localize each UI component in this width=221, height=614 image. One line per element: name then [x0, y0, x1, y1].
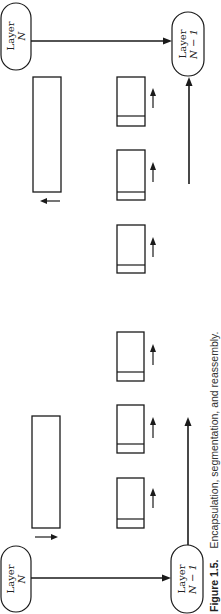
layer-n-minus-1-node-bottom: Layer N − 1: [171, 545, 203, 613]
node-label: Layer: [177, 29, 188, 58]
segment-top-2: [117, 150, 145, 200]
svg-text:Figure 1.5. Encapsulatio: Figure 1.5. Encapsulation, segmentation,…: [204, 332, 221, 612]
segment-bottom-3: [117, 478, 144, 528]
caption-text: Encapsulation, segmentation, and reassem…: [208, 332, 220, 549]
node-sublabel: N − 1: [187, 564, 198, 595]
arrow-up-small: [150, 88, 156, 108]
arrow-small-right: [35, 534, 58, 540]
figure-caption: Figure 1.5. Encapsulation, segmentation,…: [204, 332, 221, 612]
arrow-up-small: [150, 417, 156, 438]
segment-bottom-2: [117, 405, 144, 453]
node-sublabel: N: [16, 573, 27, 584]
node-label: Layer: [5, 21, 16, 50]
arrow-up-small: [150, 344, 156, 365]
encapsulation-diagram: Layer N Layer N − 1: [0, 0, 221, 614]
pdu-box-bottom: [32, 416, 60, 528]
arrow-up-small: [150, 162, 156, 182]
segment-bottom-1: [117, 332, 144, 381]
layer-n-node-top: Layer N: [1, 3, 31, 70]
node-sublabel: N: [16, 30, 27, 41]
arrow-up-small: [150, 237, 156, 257]
node-sublabel: N − 1: [188, 29, 199, 60]
arrow-bottom-horizontal: [31, 575, 171, 582]
caption-label: Figure 1.5.: [208, 559, 220, 612]
arrow-up-small: [150, 488, 156, 508]
layer-n-minus-1-node-top: Layer N − 1: [172, 12, 204, 76]
layer-n-node-bottom: Layer N: [1, 546, 31, 612]
pdu-box-top: [33, 77, 61, 192]
arrow-bottom-vertical: [185, 417, 192, 545]
node-label: Layer: [176, 564, 187, 593]
node-label: Layer: [5, 564, 16, 593]
arrow-top-vertical: [186, 77, 193, 184]
segment-top-1: [117, 77, 145, 126]
arrow-top-horizontal: [31, 38, 172, 45]
segment-top-3: [117, 225, 145, 273]
arrow-small-left: [40, 198, 60, 204]
